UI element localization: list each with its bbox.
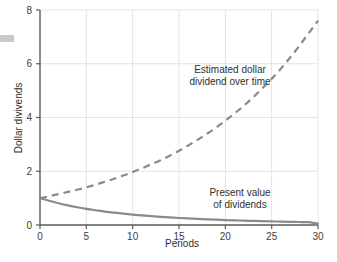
y-axis-title: Dollar divivends [13,83,24,154]
present-value-annotation: Present value of dividends [209,187,271,210]
gray-marker-artifact [0,35,14,42]
x-tick-label: 30 [312,231,324,242]
estimated-annotation-line-2: dividend over time [189,76,271,87]
present-annotation-line-2: of dividends [213,199,266,210]
chart-container: 02468 051015202530 Periods Dollar divive… [0,0,337,262]
y-tick-label: 4 [26,112,32,123]
y-tick-label: 2 [26,166,32,177]
x-tick-label: 25 [266,231,278,242]
x-tick-label: 10 [127,231,139,242]
x-axis-title: Periods [165,238,199,249]
y-tick-label: 6 [26,58,32,69]
y-tick-label: 8 [26,5,32,16]
estimated-dividend-annotation: Estimated dollar dividend over time [189,64,271,87]
y-tick-label: 0 [26,220,32,231]
x-tick-label: 0 [37,231,43,242]
present-annotation-line-1: Present value [209,187,271,198]
estimated-annotation-line-1: Estimated dollar [194,64,266,75]
x-tick-label: 20 [220,231,232,242]
x-tick-label: 5 [84,231,90,242]
dividend-chart: 02468 051015202530 Periods Dollar divive… [0,0,337,262]
